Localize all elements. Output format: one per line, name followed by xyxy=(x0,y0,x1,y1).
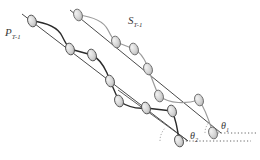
light-chain-nodes xyxy=(72,8,219,140)
node-s-2[interactable] xyxy=(128,42,140,56)
label-theta-two-subscript: 2 xyxy=(195,136,198,143)
node-p-2[interactable] xyxy=(86,48,98,62)
label-p-chain: PT-1 xyxy=(5,27,21,41)
label-p-subscript: T-1 xyxy=(12,33,21,40)
node-s-3[interactable] xyxy=(142,62,154,76)
label-theta-one: θ1 xyxy=(221,121,229,133)
node-s-6[interactable] xyxy=(207,126,219,140)
label-theta-two: θ2 xyxy=(190,131,198,143)
node-s-4[interactable] xyxy=(153,89,165,103)
dark-chain-nodes xyxy=(26,14,185,148)
node-p-3[interactable] xyxy=(104,74,116,88)
label-theta-one-subscript: 1 xyxy=(226,126,229,133)
node-s-5[interactable] xyxy=(193,93,205,107)
theta2-arc xyxy=(160,128,166,141)
node-p-7[interactable] xyxy=(173,134,185,148)
node-p-4[interactable] xyxy=(113,94,125,108)
node-p-6[interactable] xyxy=(166,104,178,118)
p-axis-line xyxy=(22,14,188,141)
label-s-chain: ST-1 xyxy=(128,15,142,29)
axis-lines xyxy=(22,10,221,141)
label-p-base: P xyxy=(5,26,12,38)
node-p-0[interactable] xyxy=(26,14,38,28)
label-s-subscript: T-1 xyxy=(134,21,143,28)
